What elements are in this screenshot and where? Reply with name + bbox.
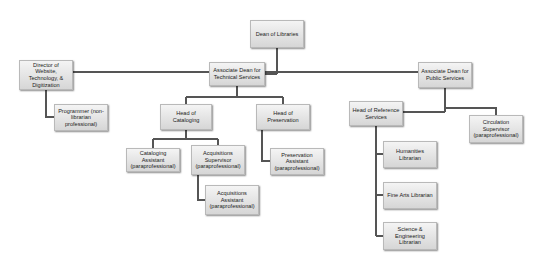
node-director-website-technology: Director of Website, Technology, & Digit… — [19, 60, 73, 90]
node-humanities-librarian: Humanities Librarian — [383, 141, 437, 168]
node-associate-dean-public: Associate Dean for Public Services — [418, 62, 472, 88]
node-cataloging-assistant: Cataloging Assistant (paraprofessional) — [126, 148, 180, 172]
node-head-of-reference: Head of Reference Services — [349, 101, 403, 126]
node-acquisitions-assistant: Acquisitions Assistant (paraprofessional… — [205, 185, 259, 215]
org-chart: Dean of Libraries Director of Website, T… — [0, 0, 538, 261]
node-programmer: Programmer (non-librarian professional) — [54, 104, 108, 131]
node-science-engineering-librarian: Science & Engineering Librarian — [383, 222, 437, 250]
node-acquisitions-supervisor: Acquisitions Supervisor (paraprofessiona… — [191, 145, 245, 175]
node-preservation-assistant: Preservation Assistant (paraprofessional… — [270, 148, 324, 175]
node-head-of-cataloging: Head of Cataloging — [160, 104, 212, 130]
node-fine-arts-librarian: Fine Arts Librarian — [383, 182, 437, 209]
node-associate-dean-technical: Associate Dean for Technical Services — [209, 62, 265, 86]
node-circulation-supervisor: Circulation Supervisor (paraprofessional… — [469, 115, 523, 143]
node-dean-of-libraries: Dean of Libraries — [250, 20, 304, 48]
node-head-of-preservation: Head of Preservation — [256, 104, 310, 130]
